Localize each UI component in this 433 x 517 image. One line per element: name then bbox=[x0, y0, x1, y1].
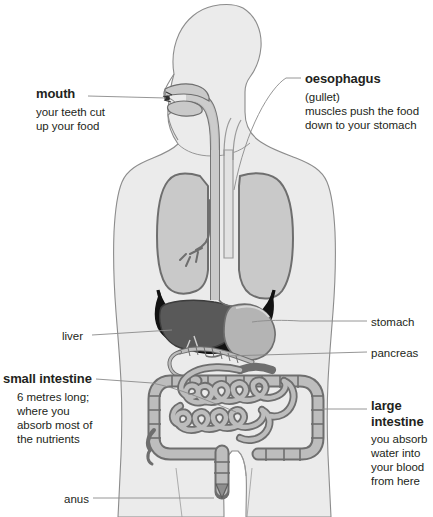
label-small-intestine-title: small intestine bbox=[3, 371, 123, 387]
rectum-organ bbox=[214, 452, 230, 498]
label-large-intestine-title: large intestine bbox=[371, 398, 433, 430]
label-small-intestine-description: 6 metres long; where you absorb most of … bbox=[17, 390, 123, 446]
label-stomach: stomach bbox=[371, 315, 414, 329]
label-oesophagus-description: (gullet) muscles push the food down to y… bbox=[305, 90, 419, 132]
label-small-intestine: small intestine 6 metres long; where you… bbox=[3, 371, 123, 446]
label-large-intestine: large intestine you absorb water into yo… bbox=[371, 398, 433, 488]
label-mouth-description: your teeth cut up your food bbox=[36, 105, 105, 133]
label-large-intestine-description: you absorb water into your blood from he… bbox=[371, 432, 433, 488]
label-oesophagus: oesophagus (gullet) muscles push the foo… bbox=[305, 71, 419, 132]
label-anus: anus bbox=[64, 492, 89, 506]
label-oesophagus-title: oesophagus bbox=[305, 71, 419, 87]
label-mouth: mouth your teeth cut up your food bbox=[36, 86, 105, 133]
label-mouth-title: mouth bbox=[36, 86, 105, 102]
digestive-system-diagram: mouth your teeth cut up your food oesoph… bbox=[0, 0, 433, 517]
label-liver: liver bbox=[62, 329, 83, 343]
label-pancreas: pancreas bbox=[371, 346, 418, 360]
